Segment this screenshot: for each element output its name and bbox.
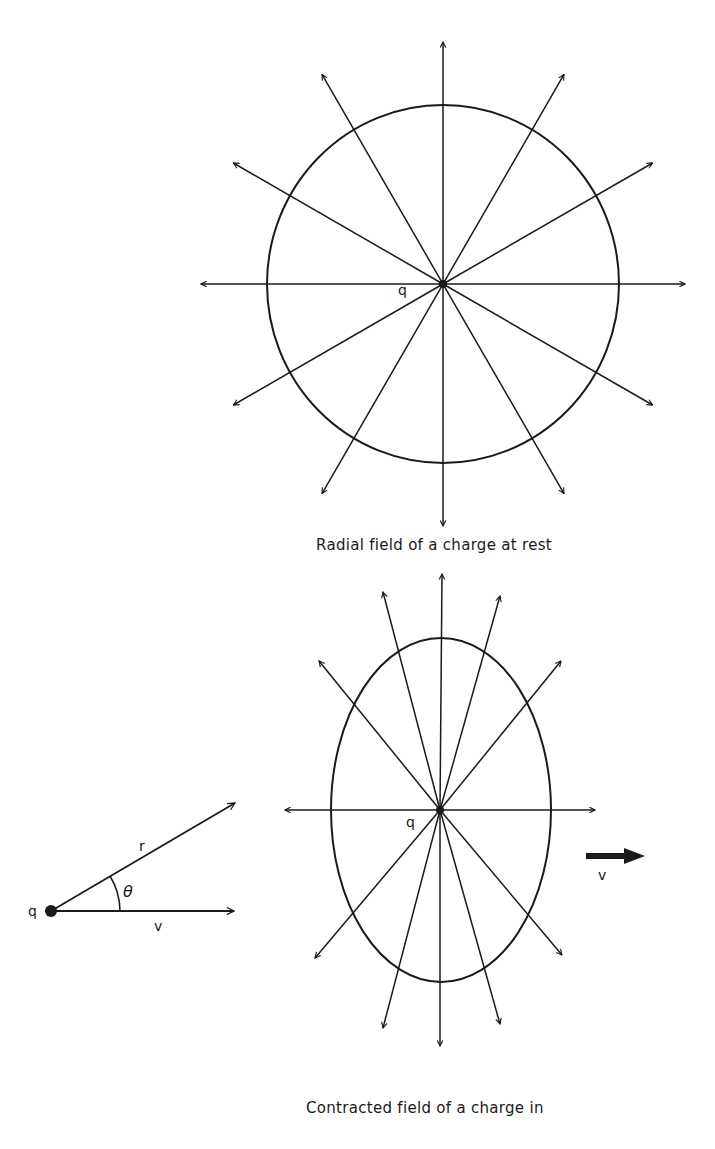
top-caption: Radial field of a charge at rest — [316, 534, 552, 556]
field-line-arrow — [233, 284, 443, 405]
v-label: v — [154, 918, 162, 934]
theta-label: θ — [123, 882, 133, 901]
charge-dot — [45, 905, 57, 917]
bottom-caption: Contracted field of a charge in motion, … — [306, 1053, 565, 1149]
caption-line-1: Contracted field of a charge in — [306, 1097, 565, 1119]
field-line-arrow — [440, 574, 442, 810]
velocity-label: v — [598, 867, 606, 883]
theta-arc — [110, 876, 120, 911]
top-charge-label: q — [398, 282, 407, 298]
field-line-arrow — [233, 163, 443, 284]
velocity-arrow-icon — [586, 848, 645, 864]
charge-dot — [436, 806, 444, 814]
field-line-arrow — [440, 596, 500, 810]
contracted-field-diagram — [285, 574, 595, 1046]
bottom-charge-label: q — [406, 814, 415, 830]
angle-diagram — [45, 803, 235, 917]
field-line-arrow — [440, 661, 561, 810]
field-line-arrow — [383, 592, 440, 810]
radial-field-diagram — [201, 42, 685, 526]
charge-dot — [439, 280, 447, 288]
field-line-arrow — [440, 810, 562, 955]
diagram-canvas: v q r θ v q q — [0, 0, 715, 1149]
r-label: r — [139, 838, 145, 854]
r-vector — [51, 803, 235, 911]
field-line-arrow — [440, 810, 500, 1024]
field-line-arrow — [319, 661, 440, 810]
field-line-arrow — [443, 284, 653, 405]
angle-charge-label: q — [28, 903, 37, 919]
field-line-arrow — [443, 163, 653, 284]
